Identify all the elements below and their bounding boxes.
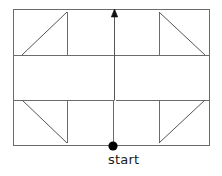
outer-rectangle — [14, 10, 210, 146]
top-left-triangle-hypotenuse — [22, 12, 67, 55]
direction-arrow-icon — [111, 9, 117, 17]
top-right-triangle-hypotenuse — [159, 12, 205, 55]
path-diagram-figure: start — [0, 0, 222, 176]
start-label: start — [108, 152, 139, 167]
start-point-marker — [108, 141, 117, 150]
figure-canvas — [0, 0, 222, 176]
bottom-left-triangle-hypotenuse — [22, 100, 67, 143]
bottom-right-triangle-hypotenuse — [159, 100, 205, 143]
